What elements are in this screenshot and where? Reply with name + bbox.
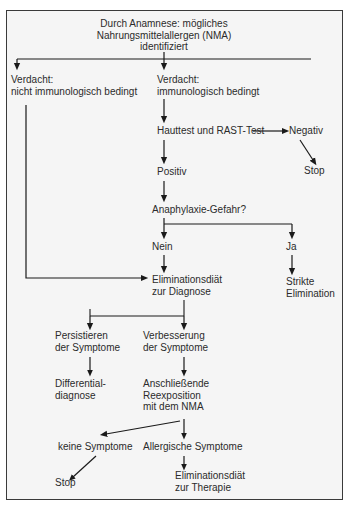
figure-page: Durch Anamnese: mögliches Nahrungsmittel… (0, 0, 350, 508)
node-verdacht-nicht-immunologisch: Verdacht: nicht immunologisch bedingt (11, 74, 137, 97)
node-negativ: Negativ (289, 125, 323, 137)
node-allergische-symptome: Allergische Symptome (143, 441, 242, 453)
node-eliminationsdiaet-zur-therapie: Eliminationsdiät zur Therapie (175, 470, 245, 493)
node-strikte-elimination: Strikte Elimination (286, 276, 335, 299)
node-hauttest-und-rast-test: Hauttest und RAST-Test (157, 125, 264, 137)
node-persistieren-der-symptome: Persistieren der Symptome (55, 330, 120, 353)
node-keine-symptome: keine Symptome (58, 441, 132, 453)
node-verdacht-immunologisch: Verdacht: immunologisch bedingt (157, 74, 259, 97)
node-anaphylaxie-gefahr: Anaphylaxie-Gefahr? (152, 204, 246, 216)
edge-eliminationsdiaet-bar (90, 300, 184, 316)
node-anschliessende-reexposition: Anschließende Reexposition mit dem NMA (143, 378, 209, 413)
node-differentialdiagnose: Differential- diagnose (55, 378, 106, 401)
node-stop-negativ: Stop (304, 165, 325, 177)
node-stop-keine-symptome: Stop (55, 477, 76, 489)
edge-keine-symptome-stop (73, 456, 96, 477)
edge-nicht-immun-eliminationsdiaet (26, 105, 142, 278)
edge-negativ-stop (300, 140, 313, 160)
node-nein: Nein (152, 241, 173, 253)
node-start: Durch Anamnese: mögliches Nahrungsmittel… (69, 18, 259, 53)
edge-reexposition-keine-symptome (106, 421, 180, 434)
node-eliminationsdiaet-zur-diagnose: Eliminationsdiät zur Diagnose (152, 274, 222, 297)
node-positiv: Positiv (157, 166, 186, 178)
node-verbesserung-der-symptome: Verbesserung der Symptome (143, 330, 208, 353)
node-ja: Ja (286, 241, 297, 253)
